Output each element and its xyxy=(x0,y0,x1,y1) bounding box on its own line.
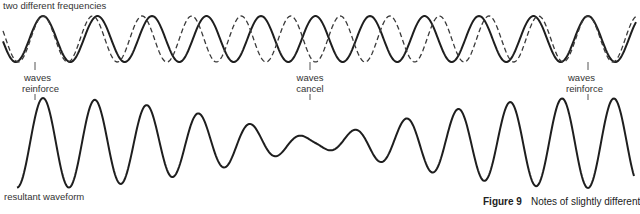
annotation-line2: cancel xyxy=(290,83,330,94)
annotation-line1: waves xyxy=(566,72,603,83)
waveform-diagram xyxy=(0,0,640,214)
annotation-reinforce-left: waves reinforce xyxy=(22,72,59,94)
annotation-line1: waves xyxy=(22,72,59,83)
resultant-label: resultant waveform xyxy=(4,191,84,202)
resultant-wave xyxy=(17,98,634,188)
frequencies-label: two different frequencies xyxy=(3,0,106,11)
annotation-line2: reinforce xyxy=(566,83,603,94)
annotation-reinforce-right: waves reinforce xyxy=(566,72,603,94)
annotation-line1: waves xyxy=(290,72,330,83)
annotation-line2: reinforce xyxy=(22,83,59,94)
figure-caption: Figure 9Notes of slightly different xyxy=(483,196,640,207)
caption-number: Figure 9 xyxy=(483,196,522,207)
annotation-cancel: waves cancel xyxy=(290,72,330,94)
caption-text: Notes of slightly different xyxy=(531,196,640,207)
solid-wave-a xyxy=(3,16,636,62)
